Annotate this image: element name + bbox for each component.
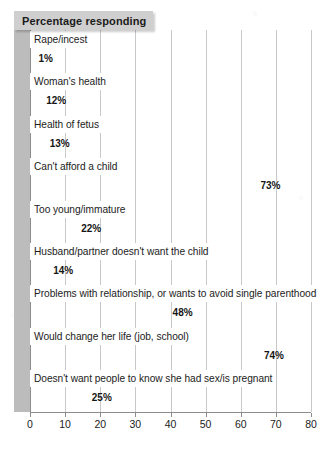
- category-label: Would change her life (job, school): [30, 328, 193, 345]
- bar-value-label: 48%: [173, 303, 193, 322]
- x-tick-label: 10: [59, 418, 71, 430]
- bar-row: Health of fetus13%: [30, 115, 311, 157]
- plot-area: Rape/incest1%Woman's health12%Health of …: [30, 30, 311, 412]
- category-label-text: Doesn't want people to know she had sex/…: [34, 373, 272, 384]
- category-label: Too young/immature: [30, 201, 129, 218]
- category-label-text: Can't afford a child: [34, 161, 117, 172]
- bar-value-label: 74%: [264, 346, 284, 365]
- category-label-text: Too young/immature: [34, 204, 125, 215]
- category-label-text: Health of fetus: [34, 119, 99, 130]
- bar-row: Doesn't want people to know she had sex/…: [30, 369, 311, 411]
- bar-row: Too young/immature22%: [30, 200, 311, 242]
- x-tick-label: 40: [165, 418, 177, 430]
- bar-container: 13%: [30, 134, 76, 153]
- bar-value-label: 14%: [53, 261, 73, 280]
- bar-container: 14%: [30, 261, 79, 280]
- x-axis: 01020304050607080: [30, 412, 311, 438]
- bar-value-label: 12%: [46, 91, 66, 110]
- bar-row: Problems with relationship, or wants to …: [30, 284, 311, 326]
- x-tick-30: [135, 413, 136, 417]
- category-label: Problems with relationship, or wants to …: [30, 285, 320, 302]
- axis-gutter-band: [14, 30, 30, 412]
- chart-title-text: Percentage responding: [22, 15, 146, 27]
- bar-container: 22%: [30, 219, 107, 238]
- category-label-text: Husband/partner doesn't want the child: [34, 246, 208, 257]
- category-label-text: Woman's health: [34, 76, 106, 87]
- bar-container: 12%: [30, 91, 72, 110]
- gridline-80: [311, 30, 312, 412]
- x-tick-10: [65, 413, 66, 417]
- bar-container: 1%: [30, 49, 34, 68]
- bar-chart: Rape/incest1%Woman's health12%Health of …: [0, 0, 327, 450]
- bar-container: 48%: [30, 303, 199, 322]
- x-tick-80: [311, 413, 312, 417]
- x-tick-label: 0: [27, 418, 33, 430]
- x-tick-50: [206, 413, 207, 417]
- bar-row: Husband/partner doesn't want the child14…: [30, 242, 311, 284]
- category-label-text: Rape/incest: [34, 34, 87, 45]
- bar-row: Woman's health12%: [30, 72, 311, 114]
- x-tick-20: [100, 413, 101, 417]
- bar-container: 73%: [30, 176, 286, 195]
- x-tick-40: [171, 413, 172, 417]
- category-label: Husband/partner doesn't want the child: [30, 243, 212, 260]
- category-label: Woman's health: [30, 73, 110, 90]
- bar-container: 74%: [30, 346, 290, 365]
- category-label-text: Would change her life (job, school): [34, 331, 189, 342]
- x-tick-label: 30: [130, 418, 142, 430]
- bar-container: 25%: [30, 388, 118, 407]
- x-tick-label: 80: [305, 418, 317, 430]
- category-label: Can't afford a child: [30, 158, 121, 175]
- x-tick-label: 60: [235, 418, 247, 430]
- bar-value-label: 73%: [260, 176, 280, 195]
- category-label: Doesn't want people to know she had sex/…: [30, 370, 276, 387]
- category-label: Rape/incest: [30, 31, 91, 48]
- x-tick-label: 70: [270, 418, 282, 430]
- x-tick-70: [276, 413, 277, 417]
- x-tick-60: [241, 413, 242, 417]
- x-tick-0: [30, 413, 31, 417]
- x-tick-label: 50: [200, 418, 212, 430]
- bar-row: Would change her life (job, school)74%: [30, 327, 311, 369]
- x-tick-label: 20: [94, 418, 106, 430]
- bar-value-label: 1%: [39, 49, 53, 68]
- chart-title-banner: Percentage responding: [14, 11, 153, 30]
- bar-row: Rape/incest1%: [30, 30, 311, 72]
- bar-value-label: 22%: [81, 219, 101, 238]
- bar-value-label: 13%: [50, 134, 70, 153]
- bar-row: Can't afford a child73%: [30, 157, 311, 199]
- category-label-text: Problems with relationship, or wants to …: [34, 288, 316, 299]
- category-label: Health of fetus: [30, 116, 103, 133]
- bar-value-label: 25%: [92, 388, 112, 407]
